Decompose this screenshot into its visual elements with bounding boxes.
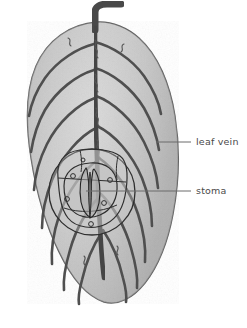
leaf-diagram-figure: leaf vein stoma	[0, 0, 247, 328]
label-stoma: stoma	[196, 185, 227, 196]
stomatal-pore	[89, 172, 92, 214]
leaf-illustration	[0, 0, 247, 328]
stoma-magnified-inset	[49, 149, 135, 235]
label-leaf-vein: leaf vein	[196, 136, 239, 147]
